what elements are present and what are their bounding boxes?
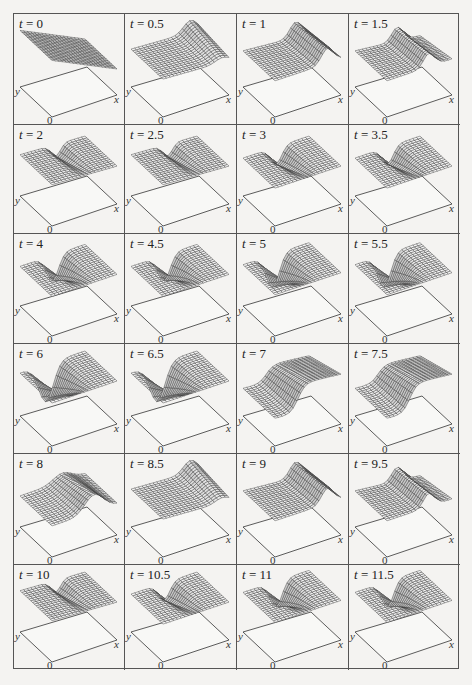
surface-wireframe-plot: y0x	[125, 125, 237, 234]
x-axis-label: x	[448, 202, 454, 214]
origin-label: 0	[270, 223, 276, 234]
surface-panel: t = 2y0x	[14, 125, 125, 234]
surface-mesh	[243, 462, 341, 520]
surface-wireframe-plot: y0x	[237, 565, 349, 670]
floor-plane	[243, 176, 341, 226]
surface-mesh	[355, 136, 452, 188]
x-axis-label: x	[225, 638, 231, 650]
surface-wireframe-plot: y0x	[349, 14, 460, 125]
x-axis-label: x	[113, 638, 119, 650]
origin-label: 0	[382, 443, 388, 454]
floor-plane	[355, 176, 452, 226]
origin-label: 0	[47, 443, 53, 454]
x-axis-label: x	[225, 202, 231, 214]
y-axis-label: y	[237, 630, 243, 642]
origin-label: 0	[382, 333, 388, 344]
surface-panel: t = 0.5y0x	[125, 14, 237, 125]
x-axis-label: x	[337, 312, 343, 324]
surface-panel: t = 3.5y0x	[349, 125, 460, 234]
floor-plane	[131, 612, 229, 662]
surface-wireframe-plot: y0x	[349, 565, 460, 670]
surface-mesh	[20, 473, 117, 526]
y-axis-label: y	[349, 85, 355, 97]
floor-plane	[131, 176, 229, 226]
surface-wireframe-plot: y0x	[349, 344, 460, 454]
surface-wireframe-plot: y0x	[14, 14, 125, 125]
floor-plane	[20, 176, 117, 226]
surface-wireframe-plot: y0x	[14, 344, 125, 454]
surface-mesh	[243, 570, 341, 622]
x-axis-label: x	[448, 312, 454, 324]
y-axis-label: y	[349, 194, 355, 206]
surface-wireframe-plot: y0x	[14, 454, 125, 565]
x-axis-label: x	[448, 93, 454, 105]
y-axis-label: y	[125, 194, 131, 206]
floor-plane	[243, 286, 341, 336]
surface-panel: t = 7y0x	[237, 344, 349, 454]
y-axis-label: y	[349, 414, 355, 426]
origin-label: 0	[47, 114, 53, 125]
origin-label: 0	[270, 659, 276, 670]
surface-mesh	[131, 461, 229, 519]
surface-mesh	[20, 136, 117, 185]
origin-label: 0	[382, 114, 388, 125]
surface-panel: t = 1.5y0x	[349, 14, 460, 125]
surface-mesh	[20, 351, 117, 403]
surface-mesh	[355, 356, 452, 418]
surface-mesh	[131, 244, 229, 296]
surface-panel: t = 4y0x	[14, 234, 125, 344]
surface-panel: t = 1y0x	[237, 14, 349, 125]
surface-mesh	[131, 136, 229, 185]
surface-panel: t = 11.5y0x	[349, 565, 460, 670]
x-axis-label: x	[337, 533, 343, 545]
surface-mesh	[355, 243, 452, 295]
origin-label: 0	[270, 443, 276, 454]
surface-mesh	[243, 356, 341, 418]
origin-label: 0	[158, 114, 164, 125]
x-axis-label: x	[225, 533, 231, 545]
surface-panel: t = 8.5y0x	[125, 454, 237, 565]
surface-panel: t = 8y0x	[14, 454, 125, 565]
surface-panel: t = 5y0x	[237, 234, 349, 344]
surface-panel: t = 6y0x	[14, 344, 125, 454]
y-axis-label: y	[349, 630, 355, 642]
origin-label: 0	[47, 333, 53, 344]
origin-label: 0	[382, 659, 388, 670]
x-axis-label: x	[113, 422, 119, 434]
y-axis-label: y	[14, 630, 20, 642]
surface-wireframe-plot: y0x	[125, 454, 237, 565]
surface-wireframe-plot: y0x	[125, 234, 237, 344]
x-axis-label: x	[113, 312, 119, 324]
x-axis-label: x	[337, 422, 343, 434]
surface-plot-grid: t = 0y0xt = 0.5y0xt = 1y0xt = 1.5y0xt = …	[13, 13, 459, 669]
origin-label: 0	[47, 223, 53, 234]
x-axis-label: x	[225, 93, 231, 105]
y-axis-label: y	[237, 414, 243, 426]
y-axis-label: y	[237, 304, 243, 316]
surface-mesh	[131, 21, 229, 80]
y-axis-label: y	[237, 194, 243, 206]
floor-plane	[131, 286, 229, 336]
floor-plane	[20, 396, 117, 446]
surface-panel: t = 3y0x	[237, 125, 349, 234]
origin-label: 0	[382, 554, 388, 565]
y-axis-label: y	[125, 85, 131, 97]
x-axis-label: x	[337, 202, 343, 214]
y-axis-label: y	[125, 630, 131, 642]
floor-plane	[243, 612, 341, 662]
surface-wireframe-plot: y0x	[237, 234, 349, 344]
surface-panel: t = 5.5y0x	[349, 234, 460, 344]
x-axis-label: x	[448, 422, 454, 434]
surface-panel: t = 11y0x	[237, 565, 349, 670]
surface-panel: t = 9.5y0x	[349, 454, 460, 565]
surface-panel: t = 6.5y0x	[125, 344, 237, 454]
origin-label: 0	[158, 443, 164, 454]
y-axis-label: y	[14, 194, 20, 206]
origin-label: 0	[158, 333, 164, 344]
surface-panel: t = 7.5y0x	[349, 344, 460, 454]
surface-panel: t = 10.5y0x	[125, 565, 237, 670]
surface-wireframe-plot: y0x	[349, 125, 460, 234]
x-axis-label: x	[337, 638, 343, 650]
y-axis-label: y	[14, 85, 20, 97]
floor-plane	[131, 396, 229, 446]
